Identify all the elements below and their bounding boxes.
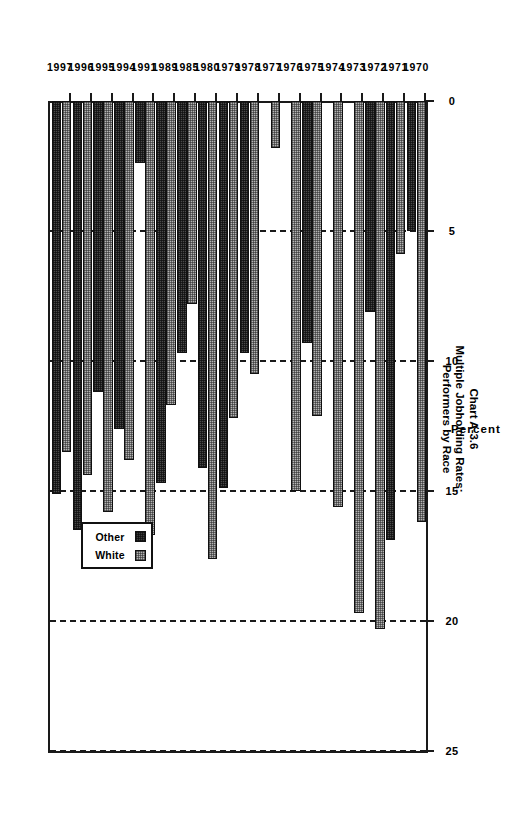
category-axis-tick: [194, 93, 196, 101]
bar-white-1976: [291, 101, 301, 491]
bar-other-1975: [302, 101, 312, 343]
value-axis-label: Percent: [451, 422, 501, 434]
category-label-1997: 1997: [48, 61, 74, 73]
category-axis-tick: [111, 93, 113, 101]
bar-other-1971: [386, 101, 396, 540]
value-axis-tick: [426, 490, 434, 492]
category-axis-tick: [340, 93, 342, 101]
chart-title-line-3: Performers by Race: [440, 39, 454, 799]
category-axis-tick: [69, 93, 71, 101]
bar-white-1995: [103, 101, 113, 512]
bar-other-1980: [198, 101, 208, 468]
category-axis-tick: [403, 93, 405, 101]
bar-other-1994: [114, 101, 124, 429]
bar-white-1989: [166, 101, 176, 405]
value-axis-tick-label: 25: [446, 745, 459, 757]
rotated-figure: Chart A-3.6 Multiple Jobholding Rates: P…: [24, 39, 494, 799]
value-axis-line: [426, 101, 428, 753]
bar-other-1989: [156, 101, 166, 483]
value-axis-tick-label: 0: [449, 95, 455, 107]
bar-white-1973: [354, 101, 364, 613]
category-axis-tick: [424, 93, 426, 101]
legend-entry-white[interactable]: White: [88, 549, 146, 561]
bar-other-1995: [93, 101, 103, 392]
bar-other-1970: [407, 101, 417, 231]
category-axis-tick: [236, 93, 238, 101]
plot-area: [50, 101, 426, 751]
value-axis-tick-label: 5: [449, 225, 455, 237]
category-axis-tick: [90, 93, 92, 101]
dark-hatched-swatch: [135, 530, 146, 541]
bar-white-1974: [333, 101, 343, 507]
category-axis-tick: [320, 93, 322, 101]
category-axis-tick: [361, 93, 363, 101]
legend-label-wrap: White: [88, 549, 132, 561]
bar-other-1978: [240, 101, 250, 353]
bar-white-1972: [375, 101, 385, 629]
value-axis-tick: [426, 750, 434, 752]
bar-white-1997: [62, 101, 72, 452]
bar-white-1977: [271, 101, 281, 148]
category-axis-tick: [173, 93, 175, 101]
value-axis-tick: [426, 100, 434, 102]
category-axis-tick: [215, 93, 217, 101]
chart-title-line-2: Multiple Jobholding Rates:: [453, 39, 467, 799]
bar-white-1970: [417, 101, 427, 522]
bar-white-1971: [396, 101, 406, 254]
value-axis-tick-label: 15: [446, 485, 459, 497]
chart-title-line-1: Chart A-3.6: [467, 39, 481, 799]
bar-white-1985: [187, 101, 197, 304]
bar-white-1991: [145, 101, 155, 535]
value-axis-tick: [426, 230, 434, 232]
category-axis-tick: [132, 93, 134, 101]
bar-other-1996: [73, 101, 83, 530]
bar-white-1994: [124, 101, 134, 460]
bar-white-1975: [312, 101, 322, 416]
bar-white-1978: [250, 101, 260, 374]
category-axis-tick: [278, 93, 280, 101]
legend-label-other: Other: [96, 530, 125, 542]
bar-other-1972: [365, 101, 375, 312]
legend-label-wrap: Other: [88, 530, 132, 542]
legend-label-white: White: [96, 549, 126, 561]
bar-white-1996: [83, 101, 93, 475]
chart-canvas: Chart A-3.6 Multiple Jobholding Rates: P…: [0, 0, 518, 837]
category-axis-tick: [152, 93, 154, 101]
bar-white-1979: [229, 101, 239, 418]
bar-other-1991: [135, 101, 145, 163]
value-axis-tick: [426, 360, 434, 362]
category-axis-tick: [257, 93, 259, 101]
legend-entry-other[interactable]: Other: [88, 530, 146, 542]
value-axis-tick-label: 10: [446, 355, 459, 367]
category-axis-tick: [382, 93, 384, 101]
light-hatched-swatch: [135, 549, 146, 560]
bar-other-1985: [177, 101, 187, 353]
category-axis-tick: [299, 93, 301, 101]
chart-title-block: Chart A-3.6 Multiple Jobholding Rates: P…: [440, 39, 481, 799]
value-axis-tick: [426, 620, 434, 622]
chart-legend: WhiteOther: [81, 522, 153, 569]
bar-other-1979: [219, 101, 229, 488]
bar-other-1997: [52, 101, 62, 494]
bar-white-1980: [208, 101, 218, 559]
value-axis-tick-label: 20: [446, 615, 459, 627]
